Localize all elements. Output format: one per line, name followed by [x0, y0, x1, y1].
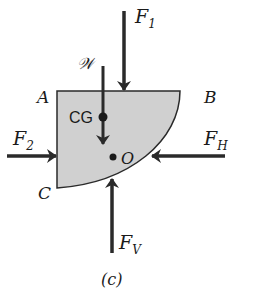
body-shape [57, 91, 180, 188]
weight-label: 𝒲 [77, 54, 98, 73]
f2-label: F2 [12, 127, 34, 153]
o-label: O [121, 149, 134, 168]
fv-label: FV [118, 231, 142, 257]
figure-caption: (c) [101, 270, 122, 289]
free-body-diagram: F1 𝒲 A B C CG O F2 FH FV (c) [0, 0, 258, 295]
corner-a-label: A [35, 87, 49, 107]
corner-b-label: B [203, 87, 217, 107]
fh-label: FH [203, 127, 228, 153]
cg-point [99, 113, 108, 122]
corner-c-label: C [38, 183, 51, 203]
f1-label: F1 [134, 5, 156, 31]
o-point [110, 154, 117, 161]
cg-label: CG [69, 109, 93, 126]
